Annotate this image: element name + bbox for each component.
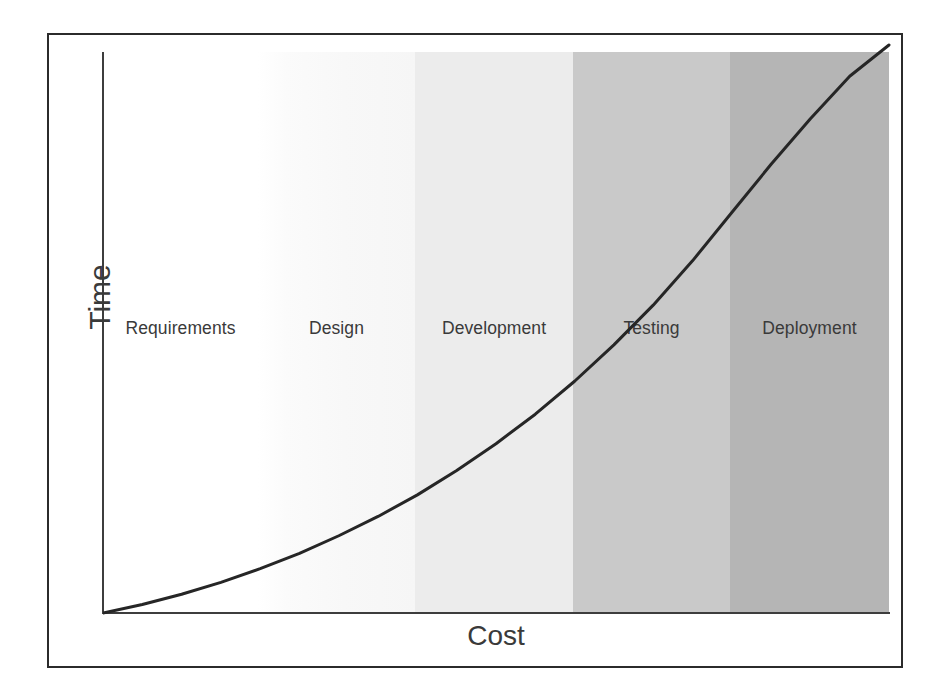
band-deployment: Deployment [730, 52, 889, 613]
band-label-requirements: Requirements [103, 320, 258, 338]
chart-figure: Requirements Design Development Testing … [0, 0, 945, 698]
band-testing: Testing [573, 52, 730, 613]
x-axis-line [103, 612, 890, 614]
band-requirements: Requirements [103, 52, 258, 613]
band-label-deployment: Deployment [730, 320, 889, 338]
band-design: Design [258, 52, 415, 613]
plot-area: Requirements Design Development Testing … [103, 52, 889, 613]
band-development: Development [415, 52, 573, 613]
band-label-design: Design [258, 320, 415, 338]
y-axis-title: Time [85, 237, 115, 357]
phase-bands: Requirements Design Development Testing … [103, 52, 889, 613]
band-label-development: Development [415, 320, 573, 338]
band-label-testing: Testing [573, 320, 730, 338]
x-axis-title: Cost [103, 622, 889, 650]
